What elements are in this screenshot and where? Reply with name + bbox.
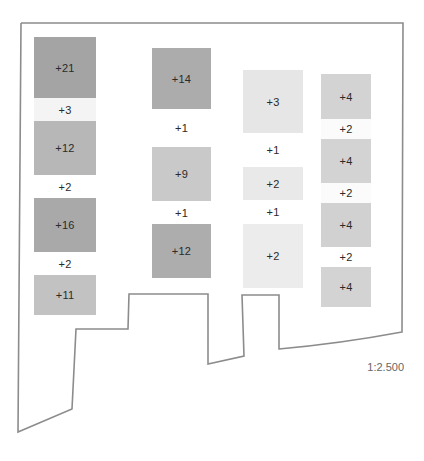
building-block: +4: [321, 74, 371, 119]
storey-increase-label: +2: [340, 187, 353, 199]
gap-strip: +1: [152, 201, 211, 224]
storey-increase-label: +1: [175, 207, 188, 219]
gap-strip: +2: [34, 252, 96, 275]
storey-increase-label: +2: [267, 250, 280, 262]
gap-strip: +2: [321, 119, 371, 139]
storey-increase-label: +12: [172, 245, 191, 257]
scale-label: 1:2.500: [356, 361, 404, 373]
building-block: +11: [34, 275, 96, 315]
storey-increase-label: +14: [172, 73, 191, 85]
storey-increase-label: +1: [267, 206, 280, 218]
storey-increase-label: +4: [340, 219, 353, 231]
storey-increase-label: +4: [340, 281, 353, 293]
gap-strip: +1: [243, 133, 303, 167]
storey-increase-label: +16: [55, 219, 74, 231]
storey-increase-label: +2: [59, 181, 72, 193]
gap-strip: +2: [321, 183, 371, 203]
building-block: +3: [243, 70, 303, 133]
storey-increase-label: +21: [55, 62, 74, 74]
storey-increase-label: +4: [340, 155, 353, 167]
gap-strip: +1: [243, 200, 303, 224]
storey-increase-label: +1: [267, 144, 280, 156]
storey-increase-label: +1: [175, 122, 188, 134]
gap-strip: +1: [152, 109, 211, 147]
storey-increase-label: +2: [267, 178, 280, 190]
building-block: +2: [243, 167, 303, 200]
storey-increase-label: +3: [267, 96, 280, 108]
building-block: +14: [152, 48, 211, 109]
building-block: +12: [152, 224, 211, 278]
storey-increase-label: +2: [340, 123, 353, 135]
building-block: +16: [34, 198, 96, 252]
storey-increase-label: +9: [175, 168, 188, 180]
building-block: +2: [243, 224, 303, 288]
storey-increase-label: +2: [59, 258, 72, 270]
building-block: +21: [34, 37, 96, 98]
storey-increase-label: +2: [340, 251, 353, 263]
building-block: +9: [152, 147, 211, 201]
storey-increase-label: +3: [59, 104, 72, 116]
storey-increase-label: +12: [55, 142, 74, 154]
gap-strip: +3: [34, 98, 96, 121]
building-block: +12: [34, 121, 96, 175]
gap-strip: +2: [321, 247, 371, 267]
building-block: +4: [321, 267, 371, 307]
storey-increase-label: +11: [56, 289, 74, 301]
building-block: +4: [321, 203, 371, 247]
storey-increase-label: +4: [340, 91, 353, 103]
gap-strip: +2: [34, 175, 96, 198]
building-block: +4: [321, 139, 371, 183]
